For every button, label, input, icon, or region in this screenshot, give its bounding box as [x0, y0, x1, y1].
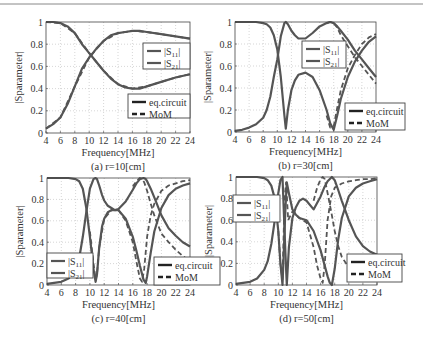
y-tick-label: 0	[39, 280, 44, 291]
x-tick-label: 10	[273, 287, 283, 298]
panel-caption: (b) r=30[cm]	[278, 160, 333, 172]
x-tick-label: 20	[156, 135, 166, 146]
y-tick-label: 0.8	[31, 39, 44, 50]
y-tick-label: 0.4	[31, 83, 44, 94]
x-tick-label: 22	[358, 287, 368, 298]
y-tick-label: 0.4	[32, 237, 45, 248]
x-tick-label: 4	[233, 134, 238, 145]
x-tick-label: 12	[99, 135, 109, 146]
y-tick-label: 0	[38, 128, 43, 139]
figure-four-panel-sparameter: 468101214161820222400.20.40.60.81Frequen…	[0, 0, 423, 344]
y-tick-label: 1	[227, 17, 232, 28]
x-tick-label: 4	[44, 135, 49, 146]
legend-method-label: eq.circuit	[368, 257, 406, 268]
y-tick-label: 0.6	[31, 61, 44, 72]
y-axis-label: |Sparameter|	[14, 205, 25, 257]
x-axis-label: Frequency[MHz]	[82, 299, 155, 310]
x-tick-label: 18	[142, 135, 152, 146]
x-tick-label: 6	[58, 135, 63, 146]
y-tick-label: 0.4	[220, 83, 233, 94]
panel-caption: (c) r=40[cm]	[91, 313, 145, 325]
y-tick-label: 0	[228, 280, 233, 291]
x-tick-label: 12	[99, 287, 109, 298]
y-tick-label: 1	[228, 172, 233, 183]
x-axis-label: Frequency[MHz]	[270, 299, 343, 310]
x-tick-label: 14	[113, 135, 123, 146]
legend-method-label: MoM	[149, 109, 172, 120]
x-tick-label: 18	[330, 287, 340, 298]
x-tick-label: 24	[372, 287, 382, 298]
y-tick-label: 0.2	[32, 258, 45, 269]
x-tick-label: 22	[357, 134, 367, 145]
x-tick-label: 24	[185, 135, 195, 146]
y-tick-label: 0.6	[221, 215, 234, 226]
x-tick-label: 4	[234, 287, 239, 298]
legend-method-label: MoM	[366, 118, 389, 129]
chart-panel-a: 468101214161820222400.20.40.60.81Frequen…	[13, 17, 195, 174]
y-tick-label: 0.2	[31, 105, 44, 116]
y-tick-label: 0.2	[220, 105, 233, 116]
x-tick-label: 6	[59, 287, 64, 298]
y-axis-label: |Sparameter|	[13, 51, 24, 103]
x-tick-label: 16	[127, 135, 137, 146]
x-axis-label: Frequency[MHz]	[82, 147, 155, 158]
y-tick-label: 0.8	[220, 39, 233, 50]
legend-method-label: eq.circuit	[175, 260, 213, 271]
x-tick-label: 16	[128, 287, 138, 298]
legend-method-label: MoM	[368, 269, 391, 280]
y-tick-label: 1	[39, 173, 44, 184]
x-tick-label: 24	[371, 134, 381, 145]
x-axis-label: Frequency[MHz]	[269, 146, 342, 157]
x-tick-label: 16	[315, 134, 325, 145]
y-tick-label: 0.4	[221, 236, 234, 247]
x-tick-label: 10	[85, 287, 95, 298]
x-tick-label: 20	[156, 287, 166, 298]
y-tick-label: 0.8	[32, 194, 45, 205]
chart-panel-c: 468101214161820222400.20.40.60.81Frequen…	[14, 173, 220, 326]
x-tick-label: 14	[302, 287, 312, 298]
y-tick-label: 0.2	[221, 258, 234, 269]
x-tick-label: 12	[286, 134, 296, 145]
legend-method-label: eq.circuit	[366, 106, 404, 117]
x-tick-label: 10	[84, 135, 94, 146]
x-tick-label: 18	[142, 287, 152, 298]
panel-caption: (d) r=50[cm]	[279, 313, 334, 325]
x-tick-label: 6	[248, 287, 253, 298]
y-tick-label: 0.8	[221, 193, 234, 204]
x-tick-label: 8	[72, 135, 77, 146]
panels-container: 468101214161820222400.20.40.60.81Frequen…	[13, 17, 406, 326]
chart-panel-d: 468101214161820222400.20.40.60.81Frequen…	[203, 172, 406, 326]
x-tick-label: 8	[261, 134, 266, 145]
chart-panel-b: 468101214161820222400.20.40.60.81Frequen…	[202, 17, 405, 173]
x-tick-label: 14	[114, 287, 124, 298]
legend-method-label: eq.circuit	[149, 97, 187, 108]
y-tick-label: 0.6	[32, 215, 45, 226]
x-tick-label: 24	[185, 287, 195, 298]
x-tick-label: 8	[262, 287, 267, 298]
y-tick-label: 1	[38, 17, 43, 28]
x-tick-label: 22	[171, 287, 181, 298]
x-tick-label: 22	[171, 135, 181, 146]
x-tick-label: 16	[316, 287, 326, 298]
y-axis-label: |Sparameter|	[203, 205, 214, 257]
y-axis-label: |Sparameter|	[202, 51, 213, 103]
x-tick-label: 10	[272, 134, 282, 145]
x-tick-label: 20	[343, 134, 353, 145]
x-tick-label: 4	[45, 287, 50, 298]
x-tick-label: 18	[329, 134, 339, 145]
panel-caption: (a) r=10[cm]	[91, 161, 145, 173]
x-tick-label: 20	[344, 287, 354, 298]
y-tick-label: 0	[227, 127, 232, 138]
x-tick-label: 12	[287, 287, 297, 298]
x-tick-label: 8	[73, 287, 78, 298]
legend-method-label: MoM	[175, 272, 198, 283]
x-tick-label: 14	[301, 134, 311, 145]
x-tick-label: 6	[247, 134, 252, 145]
y-tick-label: 0.6	[220, 61, 233, 72]
